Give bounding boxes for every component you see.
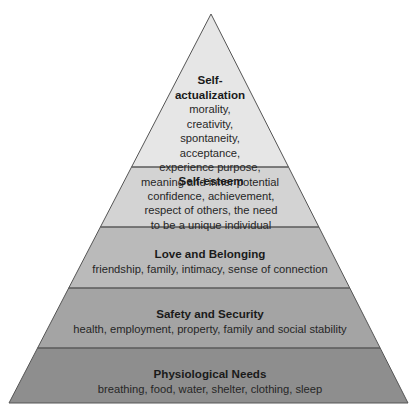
level-safety-security: Safety and Security health, employment, … <box>40 307 380 336</box>
level-description: creativity, <box>140 117 280 132</box>
level-love-belonging: Love and Belonging friendship, family, i… <box>80 247 340 276</box>
level-physiological-needs: Physiological Needs breathing, food, wat… <box>20 367 400 396</box>
level-self-esteem: Self-esteem confidence, achievement, res… <box>120 174 302 232</box>
level-title: Physiological Needs <box>20 367 400 382</box>
level-description: experience purpose, <box>140 160 280 175</box>
level-description: acceptance, <box>140 146 280 161</box>
level-title: Love and Belonging <box>80 247 340 262</box>
level-description: friendship, family, intimacy, sense of c… <box>80 262 340 277</box>
level-self-actualization: Self- actualization morality, creativity… <box>140 72 280 189</box>
level-description: health, employment, property, family and… <box>40 322 380 337</box>
level-description: to be a unique individual <box>120 218 302 233</box>
level-description: morality, <box>140 102 280 117</box>
level-title: Self-esteem <box>120 174 302 189</box>
level-description: spontaneity, <box>140 131 280 146</box>
level-title: Safety and Security <box>40 307 380 322</box>
level-title: actualization <box>140 87 280 102</box>
level-description: confidence, achievement, <box>120 189 302 204</box>
level-description: respect of others, the need <box>120 203 302 218</box>
level-description: breathing, food, water, shelter, clothin… <box>20 382 400 397</box>
level-title: Self- <box>140 72 280 87</box>
